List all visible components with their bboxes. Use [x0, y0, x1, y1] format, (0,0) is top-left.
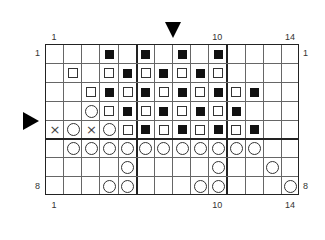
chart-cell [64, 121, 82, 140]
chart-cell [209, 177, 227, 196]
circle-icon [230, 142, 243, 155]
chart-cell [119, 177, 137, 196]
chart-cell [100, 83, 118, 102]
circle-icon [103, 123, 116, 136]
chart-cell [100, 139, 118, 158]
circle-icon [194, 142, 207, 155]
chart-cell [191, 102, 209, 121]
chart-cell [227, 139, 245, 158]
circle-icon [103, 180, 116, 193]
column-label-top: 14 [280, 32, 300, 42]
chart-cell [209, 64, 227, 83]
chart-cell [227, 83, 245, 102]
chart-cell [137, 121, 155, 140]
chart-cell [119, 121, 137, 140]
open-square-icon [104, 106, 114, 116]
open-square-icon [195, 125, 205, 135]
row-label-left: 1 [35, 48, 40, 58]
circle-icon [67, 142, 80, 155]
filled-square-icon [141, 88, 150, 97]
chart-cell [64, 139, 82, 158]
chart-cell [137, 83, 155, 102]
filled-square-icon [141, 125, 150, 134]
filled-square-icon [105, 88, 114, 97]
chart-cell [227, 121, 245, 140]
open-square-icon [195, 87, 205, 97]
circle-icon [212, 161, 225, 174]
open-square-icon [104, 68, 114, 78]
chart-cell [100, 102, 118, 121]
chart-cell [191, 64, 209, 83]
open-square-icon [141, 68, 151, 78]
chart-cell [246, 83, 264, 102]
chart-cell [155, 139, 173, 158]
chart-cell [191, 83, 209, 102]
chart-cell [227, 102, 245, 121]
circle-icon [85, 142, 98, 155]
filled-square-icon [214, 50, 223, 59]
chart-cell [119, 64, 137, 83]
circle-icon [121, 142, 134, 155]
chart-cell [191, 177, 209, 196]
chart-cell [173, 121, 191, 140]
open-square-icon [123, 125, 133, 135]
chart-cell [209, 121, 227, 140]
column-label-bottom: 10 [207, 200, 227, 210]
circle-icon [212, 142, 225, 155]
filled-square-icon [105, 50, 114, 59]
filled-square-icon [178, 125, 187, 134]
arrow-right-marker-icon [23, 112, 39, 130]
circle-icon [67, 123, 80, 136]
chart-cell [64, 64, 82, 83]
chart-cell: × [82, 121, 100, 140]
open-square-icon [123, 87, 133, 97]
chart-cell [137, 64, 155, 83]
circle-icon [121, 180, 134, 193]
filled-square-icon [159, 107, 168, 116]
chart-cell [82, 83, 100, 102]
chart-cell [82, 139, 100, 158]
filled-square-icon [178, 50, 187, 59]
chart-cell [191, 121, 209, 140]
filled-square-icon [159, 69, 168, 78]
chart-cell [100, 121, 118, 140]
chart-cell [173, 139, 191, 158]
filled-square-icon [250, 88, 259, 97]
chart-cell [173, 45, 191, 64]
row-label-right: 1 [303, 48, 308, 58]
chart-cell [100, 177, 118, 196]
filled-square-icon [232, 107, 241, 116]
open-square-icon [231, 125, 241, 135]
chart-cell [119, 139, 137, 158]
circle-icon [85, 105, 98, 118]
row-label-right: 8 [303, 181, 308, 191]
circle-icon [194, 180, 207, 193]
column-label-bottom: 1 [44, 200, 64, 210]
filled-square-icon [196, 107, 205, 116]
chart-cell [209, 45, 227, 64]
chart-cell [209, 83, 227, 102]
chart-cell [155, 64, 173, 83]
chart-cell [155, 83, 173, 102]
open-square-icon [177, 106, 187, 116]
filled-square-icon [214, 125, 223, 134]
grid-line-horizontal [46, 176, 298, 177]
column-label-top: 10 [207, 32, 227, 42]
filled-square-icon [178, 88, 187, 97]
circle-icon [103, 142, 116, 155]
filled-square-icon [196, 69, 205, 78]
chart-cell [209, 139, 227, 158]
filled-square-icon [214, 88, 223, 97]
circle-icon [139, 142, 152, 155]
row-label-left: 8 [35, 181, 40, 191]
chart-cell [82, 102, 100, 121]
arrow-down-marker-icon [165, 22, 181, 38]
chart-cell [173, 102, 191, 121]
open-square-icon [68, 68, 78, 78]
open-square-icon [213, 106, 223, 116]
filled-square-icon [250, 125, 259, 134]
circle-icon [248, 142, 261, 155]
chart-cell [137, 102, 155, 121]
chart-cell [209, 158, 227, 177]
circle-icon [157, 142, 170, 155]
